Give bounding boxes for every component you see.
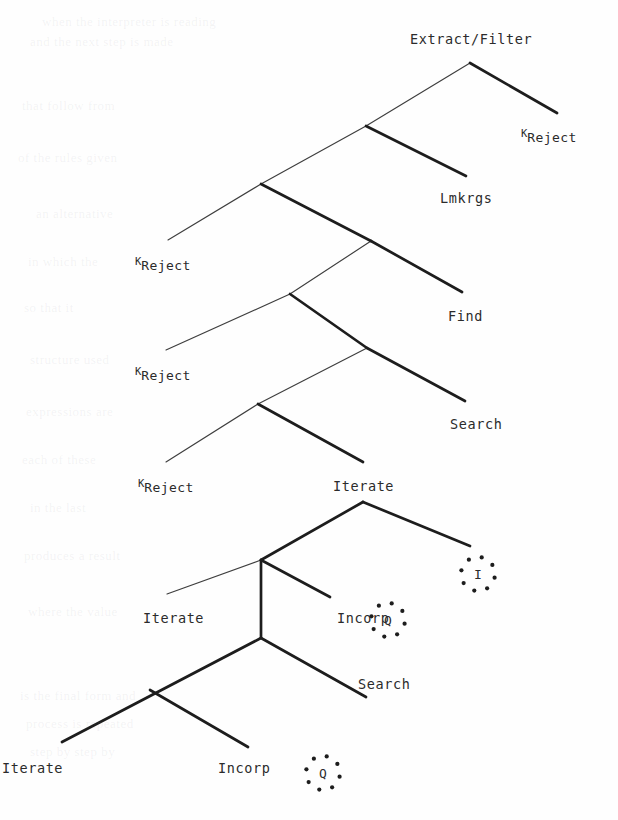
tree-edge — [166, 294, 290, 350]
circled-symbol-q: Q — [300, 750, 346, 796]
leaf-leaf-lmkrgs: Lmkrgs — [440, 192, 492, 206]
circled-letter: I — [455, 551, 501, 597]
leaf-leaf-iterate-3: Iterate — [2, 762, 63, 776]
tree-edge — [366, 63, 470, 126]
circled-letter: Q — [300, 750, 346, 796]
node-label-iterate_top: Iterate — [333, 480, 394, 494]
node-label-root: Extract/Filter — [410, 33, 532, 47]
tree-edge — [62, 638, 261, 742]
tree-edge — [363, 502, 470, 546]
leaf-leaf-reject-1: KReject — [521, 128, 577, 145]
tree-edge — [371, 241, 462, 292]
tree-edge — [167, 560, 261, 594]
tree-edge — [366, 126, 466, 176]
reject-text: Reject — [144, 480, 193, 495]
figure-canvas: Extract/FilterIterateKRejectLmkrgsKRejec… — [0, 0, 618, 820]
circled-symbol-q: Q — [365, 597, 411, 643]
tree-edge — [261, 560, 330, 597]
leaf-leaf-reject-2: KReject — [135, 256, 191, 273]
tree-edges — [62, 63, 557, 747]
leaf-leaf-reject-3: KReject — [135, 366, 191, 383]
reject-text: Reject — [527, 130, 576, 145]
tree-edge — [261, 502, 363, 560]
tree-edge — [150, 690, 248, 747]
tree-edge — [367, 348, 465, 401]
leaf-leaf-search-2: Search — [358, 678, 410, 692]
tree-edge — [290, 241, 371, 294]
leaf-leaf-find: Find — [448, 310, 483, 324]
tree-edge — [168, 184, 261, 240]
leaf-leaf-incorp-2: Incorp — [218, 762, 270, 776]
leaf-leaf-reject-4: KReject — [138, 478, 194, 495]
tree-edge — [470, 63, 557, 113]
reject-text: Reject — [141, 368, 190, 383]
tree-edge — [258, 348, 367, 404]
tree-diagram — [0, 0, 618, 820]
circled-letter: Q — [365, 597, 411, 643]
leaf-leaf-iterate-2: Iterate — [143, 612, 204, 626]
leaf-leaf-search-1: Search — [450, 418, 502, 432]
tree-edge — [261, 126, 366, 184]
tree-edge — [166, 404, 258, 462]
tree-edge — [290, 294, 367, 348]
tree-edge — [258, 404, 363, 462]
tree-edge — [261, 184, 371, 241]
tree-edge — [261, 638, 366, 697]
reject-text: Reject — [141, 258, 190, 273]
circled-symbol-i: I — [455, 551, 501, 597]
